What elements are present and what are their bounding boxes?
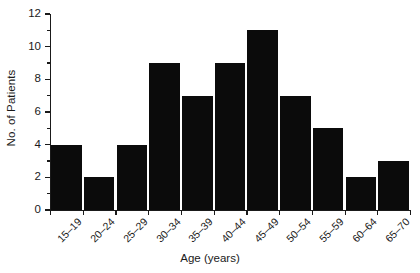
- bar: [313, 128, 344, 210]
- x-axis-tick: [312, 210, 313, 215]
- y-axis-tick-label: 8: [35, 74, 41, 86]
- x-axis-tick-label: 30–34: [154, 216, 182, 244]
- x-axis-tick: [345, 210, 346, 215]
- x-axis-tick-label: 45–49: [252, 216, 280, 244]
- histogram-figure: No. of Patients 024681012 15–1920–2425–2…: [0, 0, 420, 273]
- x-axis-tick-labels: 15–1920–2425–2930–3435–3940–4445–4950–54…: [50, 216, 410, 252]
- x-axis-line: [50, 210, 410, 211]
- bar: [378, 161, 409, 210]
- x-axis-tick-label: 50–54: [285, 216, 313, 244]
- x-axis-tick-label: 15–19: [56, 216, 84, 244]
- bar: [182, 96, 213, 210]
- y-axis-tick-label: 4: [35, 139, 41, 151]
- x-axis-tick: [50, 210, 51, 215]
- y-axis-tick: 2: [45, 177, 50, 178]
- y-axis-minor-tick: [47, 95, 51, 96]
- x-axis-tick: [410, 210, 411, 215]
- x-axis-tick-label: 20–24: [88, 216, 116, 244]
- bar: [117, 145, 148, 210]
- x-axis-tick-label: 65–70: [383, 216, 411, 244]
- x-axis-title: Age (years): [0, 252, 420, 264]
- x-axis-tick: [83, 210, 84, 215]
- bar: [247, 30, 278, 210]
- y-axis-minor-tick: [47, 128, 51, 129]
- bar: [51, 145, 82, 210]
- x-axis-tick-label: 35–39: [187, 216, 215, 244]
- y-axis-tick: 4: [45, 144, 50, 145]
- bar: [84, 177, 115, 210]
- x-axis-tick-label: 25–29: [121, 216, 149, 244]
- x-axis-title-label: Age (years): [180, 252, 239, 264]
- x-axis-tick: [115, 210, 116, 215]
- bar: [346, 177, 377, 210]
- y-axis-tick-label: 2: [35, 172, 41, 184]
- y-axis-minor-tick: [47, 30, 51, 31]
- y-axis-minor-tick: [47, 193, 51, 194]
- y-axis-title: No. of Patients: [0, 0, 22, 215]
- y-axis-tick-label: 0: [35, 204, 41, 216]
- x-axis-tick: [279, 210, 280, 215]
- x-axis-tick: [214, 210, 215, 215]
- y-axis-tick: 10: [45, 46, 50, 47]
- bar: [215, 63, 246, 210]
- y-axis-tick: 8: [45, 79, 50, 80]
- x-axis-tick: [148, 210, 149, 215]
- x-axis-tick: [246, 210, 247, 215]
- bar: [280, 96, 311, 210]
- y-axis-minor-tick: [47, 62, 51, 63]
- x-axis-tick: [377, 210, 378, 215]
- x-axis-tick-label: 55–59: [318, 216, 346, 244]
- y-axis-minor-tick: [47, 160, 51, 161]
- y-axis-tick-label: 10: [28, 41, 41, 53]
- x-axis-tick: [181, 210, 182, 215]
- bar: [149, 63, 180, 210]
- plot-area: 024681012: [50, 14, 410, 210]
- x-axis-tick-label: 40–44: [219, 216, 247, 244]
- y-axis-tick-label: 6: [35, 106, 41, 118]
- x-axis-tick-label: 60–64: [350, 216, 378, 244]
- y-axis-tick-label: 12: [28, 8, 41, 20]
- y-axis-title-label: No. of Patients: [5, 69, 17, 146]
- y-axis-tick: 6: [45, 111, 50, 112]
- y-axis-tick: 12: [45, 13, 50, 14]
